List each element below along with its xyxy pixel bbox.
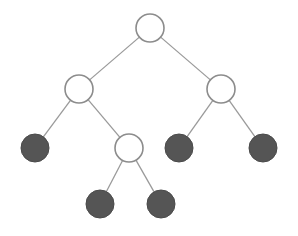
leaf-node-lrl [86,190,114,218]
tree-edge-root-r [161,37,211,80]
internal-node-r [207,75,235,103]
binary-tree-diagram [0,0,298,236]
tree-edge-lr-lrr [136,160,154,192]
leaf-node-ll [21,134,49,162]
internal-node-lr [115,134,143,162]
internal-node-l [65,75,93,103]
tree-edge-l-ll [43,100,70,137]
leaf-node-rl [165,134,193,162]
internal-node-root [136,14,164,42]
leaf-node-rr [249,134,277,162]
tree-edges [43,37,255,192]
tree-edge-lr-lrl [106,160,122,191]
tree-edge-root-l [90,37,140,80]
leaf-node-lrr [147,190,175,218]
tree-edge-r-rl [187,100,213,136]
tree-edge-r-rr [229,100,255,136]
tree-edge-l-lr [88,100,120,138]
